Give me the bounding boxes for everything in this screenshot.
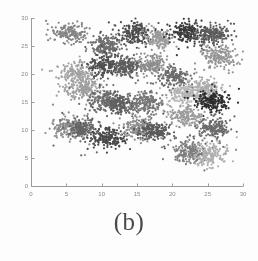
figure-caption: (b): [0, 208, 258, 236]
y-axis-tick-label: 15: [15, 99, 28, 105]
scatter-plot-canvas: [0, 0, 258, 205]
y-axis-tick-label: 10: [15, 127, 28, 133]
x-axis-tick-label: 10: [98, 191, 105, 197]
y-axis-tick-label: 5: [15, 155, 28, 161]
x-axis-tick-label: 25: [204, 191, 211, 197]
y-axis-tick-label: 20: [15, 71, 28, 77]
y-axis-tick-label: 30: [15, 15, 28, 21]
x-axis-tick-label: 0: [29, 191, 32, 197]
y-axis-tick-label: 25: [15, 43, 28, 49]
x-axis-tick-label: 20: [169, 191, 176, 197]
scatter-plot-panel: 051015202530051015202530: [0, 0, 258, 205]
x-axis-tick-label: 5: [65, 191, 68, 197]
x-axis-tick-label: 15: [134, 191, 141, 197]
y-axis-tick-label: 0: [15, 183, 28, 189]
x-axis-tick-label: 30: [240, 191, 247, 197]
figure-container: 051015202530051015202530 (b): [0, 0, 258, 261]
